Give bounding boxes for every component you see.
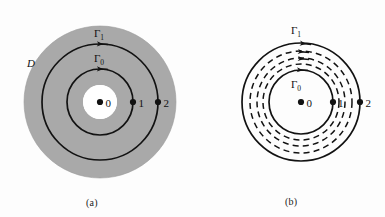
contour-label-gamma0-b: Γ0 [291,78,301,93]
point-label-1-b: 1 [338,97,344,109]
point-label-2-b: 2 [366,97,372,109]
point-label-0-b: 0 [307,97,313,109]
direction-arrow-gamma0-b [300,70,308,71]
direction-arrow-deformation-2-b [301,59,309,60]
direction-arrow-gamma1-b [303,44,311,45]
panel-b-diagram: 0 1 2 Γ1 Γ0 [195,0,385,195]
figure-root: 0 1 2 Γ1 Γ0 D [0,0,385,217]
gamma0-a-sub: 0 [100,58,104,67]
contour-label-gamma1-b: Γ1 [291,24,301,39]
point-label-2-a: 2 [164,97,170,109]
point-marker-2-a [155,99,161,105]
gamma0-b-sub: 0 [297,84,301,93]
direction-arrow-deformation-1-b [301,52,309,53]
point-marker-0-b [298,99,304,105]
gamma1-a-sub: 1 [100,33,104,42]
point-marker-1-a [130,99,136,105]
domain-label-D: D [26,57,35,69]
gamma1-b-sub: 1 [297,30,301,39]
point-marker-1-b [330,99,336,105]
point-marker-0-a [97,99,103,105]
point-label-1-a: 1 [139,97,145,109]
panel-a-diagram: 0 1 2 Γ1 Γ0 D [0,0,190,195]
point-label-0-a: 0 [106,97,112,109]
panel-caption-b: (b) [285,196,297,207]
point-marker-2-b [357,99,363,105]
panel-caption-a: (a) [86,197,98,208]
